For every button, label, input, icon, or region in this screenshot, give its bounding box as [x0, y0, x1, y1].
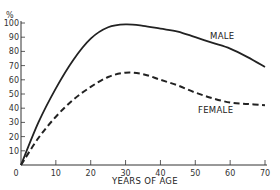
line-chart: 102030405060708090100010203040506070 % Y… — [0, 0, 280, 190]
y-tick-label: 70 — [9, 62, 19, 71]
x-tick-label: 10 — [51, 169, 61, 178]
x-tick-label: 70 — [260, 169, 270, 178]
y-tick-label: 100 — [4, 19, 19, 28]
x-axis-title: YEARS OF AGE — [111, 176, 178, 186]
series-label-male: MALE — [210, 31, 234, 41]
series-label-female: FEMALE — [198, 105, 233, 115]
y-tick-label: 90 — [9, 33, 19, 42]
y-tick-label: 60 — [9, 76, 19, 85]
y-unit-label: % — [6, 11, 14, 20]
x-tick-label: 0 — [13, 169, 18, 178]
x-tick-label: 50 — [190, 169, 200, 178]
series-lines — [21, 24, 265, 165]
x-tick-label: 20 — [86, 169, 96, 178]
axis-ticks: 102030405060708090100010203040506070 — [4, 19, 270, 178]
y-tick-label: 10 — [9, 147, 19, 156]
series-line-male — [21, 24, 265, 165]
y-tick-label: 50 — [9, 90, 19, 99]
y-tick-label: 80 — [9, 47, 19, 56]
y-tick-label: 30 — [9, 118, 19, 127]
y-tick-label: 20 — [9, 133, 19, 142]
y-tick-label: 40 — [9, 104, 19, 113]
x-tick-label: 60 — [225, 169, 235, 178]
axes — [21, 21, 267, 165]
